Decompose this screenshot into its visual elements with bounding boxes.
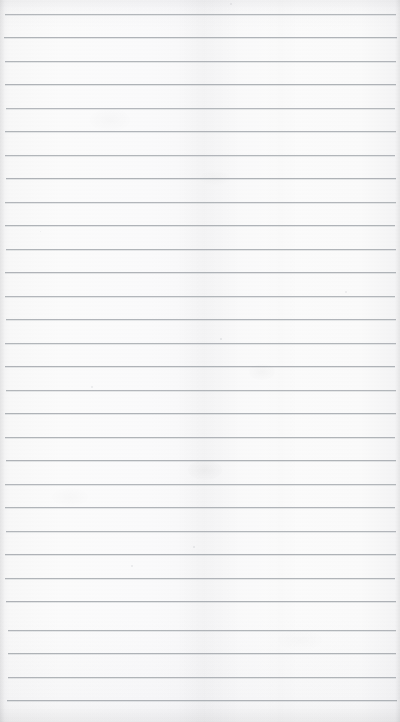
- rule-line: [7, 700, 397, 701]
- rule-line: [5, 554, 396, 555]
- rule-line: [5, 155, 395, 156]
- rule-line: [5, 84, 396, 85]
- rule-line: [5, 507, 395, 508]
- rule-line: [5, 484, 396, 485]
- rule-line: [8, 677, 396, 678]
- rule-line: [6, 390, 396, 391]
- rule-line: [5, 296, 395, 297]
- rule-line: [6, 601, 396, 602]
- rule-line: [6, 460, 396, 461]
- rule-line: [5, 343, 396, 344]
- rule-line: [6, 178, 396, 179]
- rule-line: [5, 578, 395, 579]
- rule-line: [8, 653, 396, 654]
- ruled-lines-group: [0, 0, 400, 722]
- rule-line: [5, 413, 396, 414]
- rule-line: [5, 272, 396, 273]
- rule-line: [6, 531, 396, 532]
- rule-line: [5, 131, 396, 132]
- rule-line: [5, 437, 395, 438]
- rule-line: [6, 108, 395, 109]
- rule-line: [5, 225, 395, 226]
- rule-line: [5, 61, 396, 62]
- rule-line: [5, 202, 396, 203]
- rule-line: [5, 14, 396, 15]
- rule-line: [6, 249, 396, 250]
- scanned-page: [0, 0, 400, 722]
- rule-line: [5, 366, 395, 367]
- rule-line: [6, 319, 396, 320]
- rule-line: [4, 37, 397, 38]
- rule-line: [8, 630, 396, 631]
